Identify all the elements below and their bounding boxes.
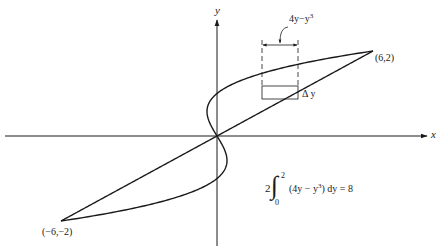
area-diagram — [0, 0, 438, 247]
callout-arrow — [280, 27, 288, 43]
point-label-neg6-neg2: (−6,−2) — [42, 226, 72, 237]
point-label-6-2: (6,2) — [375, 52, 394, 63]
strip-width-exp: 3 — [310, 12, 314, 20]
strip-width-base: 4y−y — [289, 13, 310, 24]
integrand-suffix: ) dy = 8 — [321, 183, 352, 194]
integral-upper-limit: 2 — [281, 171, 285, 180]
y-axis-label: y — [215, 4, 220, 16]
strip-width-label: 4y−y3 — [289, 13, 313, 24]
integral-lower-limit: 0 — [275, 198, 279, 207]
x-axis-label: x — [431, 128, 436, 140]
integrand-prefix: (4y − y — [289, 183, 318, 194]
integral-expression: 2 ∫ 2 0 (4y − y3) dy = 8 — [264, 172, 374, 206]
integrand: (4y − y3) dy = 8 — [289, 183, 353, 194]
integral-coefficient: 2 — [265, 182, 271, 194]
integral-sign: ∫ — [271, 171, 278, 201]
strip-rectangle — [262, 86, 298, 99]
delta-y-label: Δ y — [302, 88, 315, 99]
